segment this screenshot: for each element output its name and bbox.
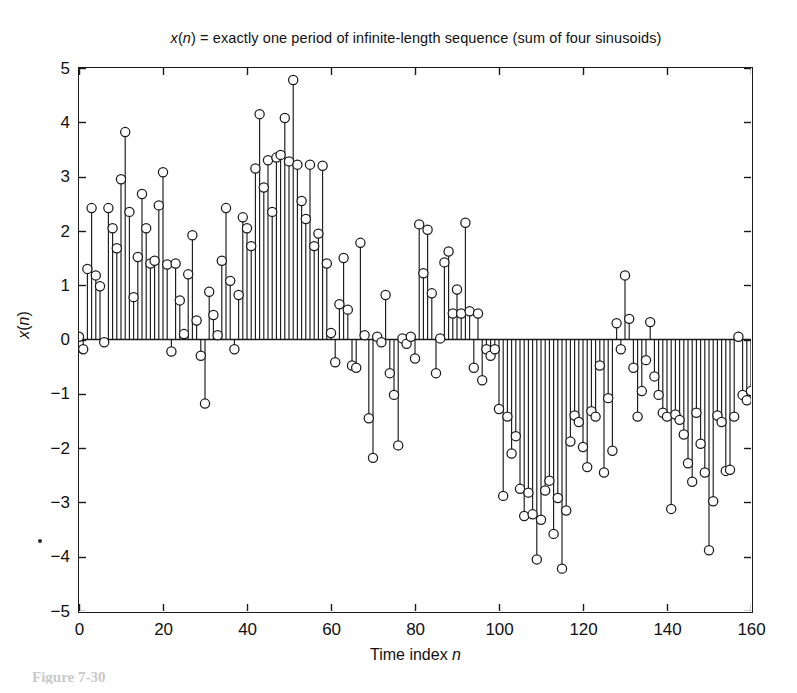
x-axis-label-prefix: Time index <box>370 646 452 663</box>
caption-fragment: Figure 7-30 <box>32 672 182 684</box>
y-axis-label: x(n) <box>15 275 33 375</box>
y-tick-label: −2 <box>26 439 70 459</box>
x-axis-label: Time index n <box>78 646 753 664</box>
y-tick-label: 4 <box>26 113 70 133</box>
x-tick-label: 60 <box>302 620 362 640</box>
stem-plot-figure: x(n) = exactly one period of infinite-le… <box>0 0 797 693</box>
x-tick-label: 120 <box>554 620 614 640</box>
y-tick-label: −3 <box>26 493 70 513</box>
title-var-x: x <box>171 30 178 46</box>
y-tick-label: 5 <box>26 59 70 79</box>
y-tick-label: 2 <box>26 222 70 242</box>
scan-speck-artifact <box>38 539 42 543</box>
x-tick-label: 20 <box>134 620 194 640</box>
plot-area <box>78 67 753 613</box>
y-axis-label-paren-close: ) <box>15 311 32 316</box>
y-tick-label: −4 <box>26 547 70 567</box>
x-tick-label: 40 <box>218 620 278 640</box>
x-tick-label: 140 <box>638 620 698 640</box>
x-axis-tick-labels: 020406080100120140160 <box>78 620 753 644</box>
title-rest: = exactly one period of infinite-length … <box>196 30 662 46</box>
x-tick-label: 160 <box>722 620 782 640</box>
x-tick-label: 0 <box>50 620 110 640</box>
x-tick-label: 100 <box>470 620 530 640</box>
stem-series-canvas <box>79 68 751 611</box>
y-axis-label-var2: n <box>15 317 32 326</box>
y-axis-label-var: x <box>15 331 32 339</box>
y-tick-label: −5 <box>26 602 70 622</box>
chart-title: x(n) = exactly one period of infinite-le… <box>78 30 754 46</box>
title-var-n: n <box>183 30 191 46</box>
y-axis-label-paren-open: ( <box>15 325 32 330</box>
y-tick-label: −1 <box>26 384 70 404</box>
x-tick-label: 80 <box>386 620 446 640</box>
y-tick-label: 3 <box>26 167 70 187</box>
x-axis-label-var: n <box>452 646 461 663</box>
